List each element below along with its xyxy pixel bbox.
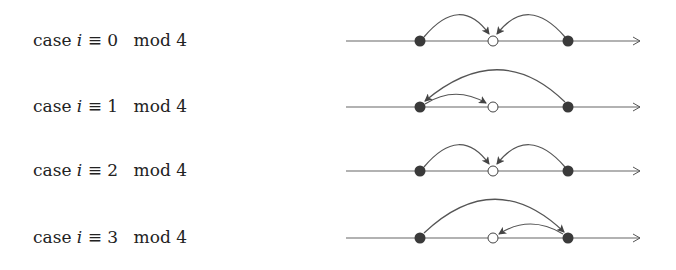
- filled-node-right: [563, 233, 574, 244]
- number-line-row-3: [346, 199, 640, 243]
- filled-node-right: [563, 36, 574, 47]
- open-node-mid: [488, 166, 498, 176]
- arc-right-to-mid: [497, 145, 565, 167]
- filled-node-left: [415, 102, 426, 113]
- open-node-mid: [488, 36, 498, 46]
- arc-left-to-mid: [424, 15, 489, 37]
- arc-left-to-mid: [424, 145, 489, 167]
- filled-node-right: [563, 102, 574, 113]
- filled-node-left: [415, 36, 426, 47]
- filled-node-right: [563, 166, 574, 177]
- number-line-diagram: [0, 0, 676, 270]
- number-line-row-0: [346, 15, 640, 47]
- open-node-mid: [488, 233, 498, 243]
- arc-left-to-right: [424, 199, 564, 233]
- number-line-row-1: [346, 70, 640, 113]
- open-node-mid: [488, 102, 498, 112]
- filled-node-left: [415, 233, 426, 244]
- arc-right-to-mid: [499, 224, 563, 234]
- filled-node-left: [415, 166, 426, 177]
- arc-left-to-mid: [425, 94, 486, 104]
- arc-right-to-mid: [497, 15, 565, 37]
- arc-right-to-left: [425, 70, 565, 102]
- number-line-row-2: [346, 145, 640, 177]
